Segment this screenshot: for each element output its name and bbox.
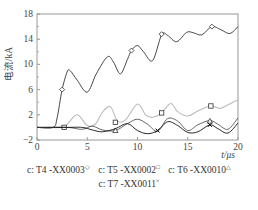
y-tick-label: 6 — [28, 85, 33, 95]
y-tick-label: 2 — [28, 110, 33, 120]
series-line-c-t4-xx0003 — [37, 26, 238, 128]
x-tick-label: 5 — [85, 142, 90, 152]
legend-item-t7: c: T7 -XX0011× — [99, 179, 160, 189]
square-marker — [209, 104, 213, 108]
y-tick-label: 14 — [24, 34, 34, 44]
y-tick-label: 18 — [24, 9, 34, 19]
diamond-marker — [209, 24, 214, 29]
triangle-marker-icon: △ — [226, 164, 231, 170]
legend-item-t6: c: T6 -XX0010△ — [168, 165, 231, 175]
diamond-marker — [159, 32, 164, 37]
x-marker-icon: × — [156, 178, 159, 184]
x-tick-label: 10 — [133, 142, 143, 152]
y-tick-label: −2 — [23, 135, 33, 145]
x-tick-label: 0 — [35, 142, 40, 152]
y-tick-label: 10 — [24, 59, 34, 69]
legend-row-2: c: T7 -XX0011× — [0, 178, 258, 189]
diamond-marker — [60, 87, 65, 92]
y-axis-title: 电流/kA — [3, 47, 14, 81]
legend-item-t4: c: T4 -XX0003◇ — [27, 165, 90, 175]
legend: c: T4 -XX0003◇ c: T5 -XX0002□ c: T6 -XX0… — [0, 163, 258, 175]
square-marker-icon: □ — [156, 164, 160, 170]
x-axis-title: t/μs — [221, 150, 235, 160]
square-marker — [159, 111, 163, 115]
square-marker — [113, 120, 117, 124]
x-tick-label: 15 — [183, 142, 193, 152]
legend-item-t5: c: T5 -XX0002□ — [98, 165, 160, 175]
diamond-marker-icon: ◇ — [85, 164, 90, 170]
line-chart: −22610141805101520 电流/kA t/μs — [0, 0, 258, 160]
